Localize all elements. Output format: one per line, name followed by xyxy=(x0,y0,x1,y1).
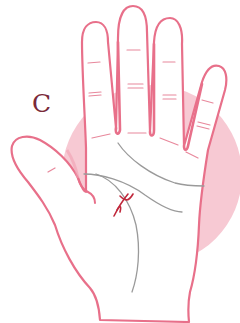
diagram-label: C xyxy=(32,91,51,116)
palm-diagram: C xyxy=(0,0,240,323)
hand-illustration xyxy=(0,0,240,323)
